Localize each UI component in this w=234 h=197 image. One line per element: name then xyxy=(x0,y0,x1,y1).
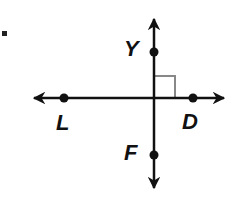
label-D: D xyxy=(182,111,198,133)
right-angle-mark xyxy=(154,76,175,98)
point-L xyxy=(60,94,69,103)
label-Y: Y xyxy=(124,38,139,60)
label-L: L xyxy=(56,112,69,134)
point-F xyxy=(150,151,159,160)
label-F: F xyxy=(124,142,137,164)
point-D xyxy=(189,94,198,103)
perpendicular-lines-diagram xyxy=(0,0,234,197)
point-Y xyxy=(150,48,159,57)
